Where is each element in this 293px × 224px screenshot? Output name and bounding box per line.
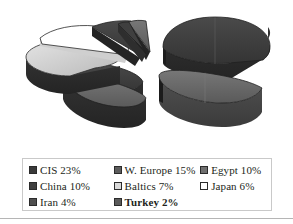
legend-swatch-japan bbox=[200, 182, 208, 190]
legend-label-china: China 10% bbox=[40, 180, 90, 192]
pie-chart bbox=[0, 0, 293, 150]
legend-swatch-cis bbox=[29, 166, 37, 174]
legend-swatch-baltics bbox=[114, 182, 122, 190]
legend-swatch-china bbox=[29, 182, 37, 190]
pie-chart-canvas bbox=[0, 0, 293, 150]
legend-item-turkey: Turkey 2% bbox=[114, 194, 201, 210]
legend-label-iran: Iran 4% bbox=[40, 196, 76, 208]
legend-label-japan: Japan 6% bbox=[211, 180, 254, 192]
legend-item-iran: Iran 4% bbox=[29, 194, 114, 210]
legend-label-baltics: Baltics 7% bbox=[125, 180, 174, 192]
legend-item-china: China 10% bbox=[29, 178, 114, 194]
legend-label-w-europe: W. Europe 15% bbox=[125, 164, 196, 176]
bottom-divider bbox=[0, 218, 293, 219]
legend-item-egypt: Egypt 10% bbox=[200, 162, 271, 178]
legend-label-turkey: Turkey 2% bbox=[125, 196, 179, 208]
legend-item-w-europe: W. Europe 15% bbox=[114, 162, 201, 178]
legend-swatch-egypt bbox=[200, 166, 208, 174]
legend-item-cis: CIS 23% bbox=[29, 162, 114, 178]
legend-swatch-turkey bbox=[114, 198, 122, 206]
legend-item-japan: Japan 6% bbox=[200, 178, 271, 194]
legend-row: CIS 23% W. Europe 15% Egypt 10% bbox=[29, 162, 271, 178]
legend-item-empty bbox=[200, 194, 271, 210]
legend-swatch-iran bbox=[29, 198, 37, 206]
legend-label-cis: CIS 23% bbox=[40, 164, 81, 176]
legend-swatch-w-europe bbox=[114, 166, 122, 174]
chart-page: CIS 23% W. Europe 15% Egypt 10% China 10… bbox=[0, 0, 293, 224]
legend-label-egypt: Egypt 10% bbox=[211, 164, 261, 176]
legend-item-baltics: Baltics 7% bbox=[114, 178, 201, 194]
pie-slice-w-europe bbox=[159, 70, 262, 127]
legend-row: Iran 4% Turkey 2% bbox=[29, 194, 271, 210]
legend-row: China 10% Baltics 7% Japan 6% bbox=[29, 178, 271, 194]
chart-legend: CIS 23% W. Europe 15% Egypt 10% China 10… bbox=[22, 158, 272, 211]
